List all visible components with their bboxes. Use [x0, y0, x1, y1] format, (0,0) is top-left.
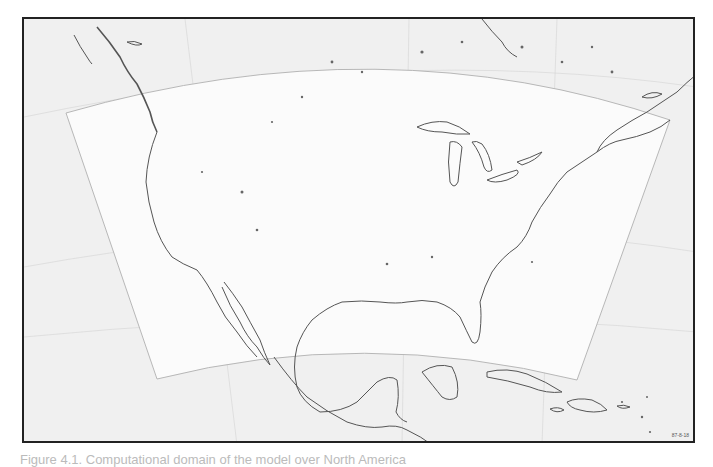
- figure-caption: Figure 4.1. Computational domain of the …: [20, 452, 406, 467]
- domain-map: [24, 19, 695, 443]
- map-id-label: 87-8-18: [672, 432, 689, 438]
- model-domain: [66, 69, 670, 380]
- map-frame: 87-8-18: [22, 17, 695, 443]
